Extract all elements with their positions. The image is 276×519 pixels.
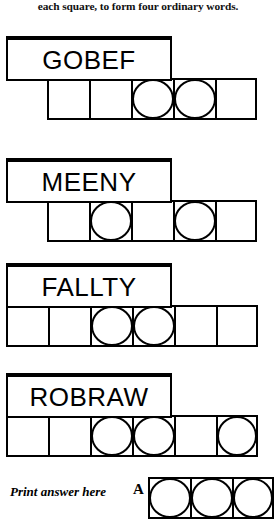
letter-cell-circled[interactable] [132,305,174,347]
letter-cell-circled[interactable] [173,200,215,242]
letter-cell[interactable] [47,200,89,242]
answer-cell-circled[interactable] [232,477,274,519]
letter-cell[interactable] [48,415,90,457]
instruction-text: each square, to form four ordinary words… [0,0,276,12]
letter-cell[interactable] [48,305,90,347]
scrambled-word-box: GOBEF [6,36,172,81]
letter-grid [47,200,257,242]
scrambled-word-text: GOBEF [42,47,136,73]
letter-cell[interactable] [6,415,48,457]
letter-cell-circled[interactable] [132,415,174,457]
letter-cell-circled[interactable] [90,305,132,347]
letter-cell-circled[interactable] [90,415,132,457]
letter-cell[interactable] [174,415,216,457]
print-answer-here-label: Print answer here [10,484,106,500]
letter-cell-circled[interactable] [89,200,131,242]
letter-cell[interactable] [6,305,48,347]
letter-cell-circled[interactable] [173,78,215,120]
answer-grid [148,477,274,519]
letter-cell-circled[interactable] [216,415,258,457]
letter-cell[interactable] [216,305,258,347]
letter-grid [6,415,258,457]
letter-cell[interactable] [215,200,257,242]
scrambled-word-text: MEENY [42,169,137,195]
answer-cell-circled[interactable] [190,477,232,519]
scrambled-word-box: FALLTY [6,263,172,308]
letter-grid [6,305,258,347]
letter-cell[interactable] [131,200,173,242]
letter-cell[interactable] [174,305,216,347]
letter-cell[interactable] [89,78,131,120]
scrambled-word-box: ROBRAW [6,373,172,418]
answer-prefix-letter: A [133,481,144,498]
letter-cell-circled[interactable] [131,78,173,120]
scrambled-word-text: ROBRAW [29,384,148,410]
answer-cell-circled[interactable] [148,477,190,519]
scrambled-word-text: FALLTY [41,274,136,300]
scrambled-word-box: MEENY [6,158,172,203]
letter-grid [47,78,257,120]
letter-cell[interactable] [215,78,257,120]
letter-cell[interactable] [47,78,89,120]
